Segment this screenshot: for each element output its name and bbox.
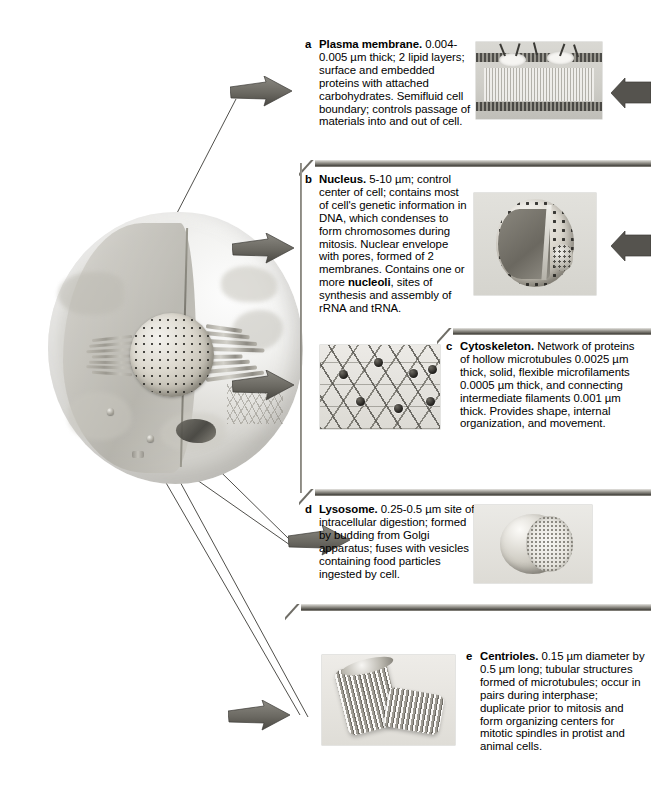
arrow-to-panel-b: [232, 233, 294, 267]
cytoplasm-blob: [58, 272, 124, 316]
plasma-membrane-illustration: [476, 42, 602, 119]
panel-term-a: Plasma membrane.: [319, 38, 422, 50]
panel-term-c: Cytoskeleton.: [460, 340, 534, 352]
panel-term-b: Nucleus.: [319, 173, 366, 185]
panel-separator-c-d: [299, 489, 651, 496]
arrow-to-panel-c: [232, 370, 294, 404]
panel-separator-d-e: [285, 604, 651, 611]
panel-desc-a: 0.004-0.005 µm thick; 2 lipid layers; su…: [319, 38, 470, 127]
panel-term-e: Centrioles.: [480, 650, 538, 662]
nucleus-organelle: [130, 313, 214, 397]
panel-lysosome: d Lysosome. 0.25-0.5 µm site of intracel…: [305, 503, 475, 583]
panel-emphasis-b: nucleoli: [348, 276, 391, 288]
arrow-to-panel-a: [230, 76, 292, 110]
panel-left-edge-b: [300, 163, 302, 493]
panel-letter-d: d: [305, 503, 312, 516]
panel-separator-b-c: [437, 328, 651, 335]
leader-centriole-2: [166, 456, 308, 717]
leader-centriole-1: [150, 455, 300, 715]
panel-nucleus: b Nucleus. 5-10 µm; control center of ce…: [305, 173, 475, 323]
centriole-organelle: [132, 451, 144, 458]
panel-letter-e: e: [466, 650, 472, 663]
lysosome-illustration: [474, 505, 592, 583]
centrioles-illustration: [322, 655, 455, 745]
panel-desc-b: 5-10 µm; control center of cell; contain…: [319, 173, 466, 288]
panel-centrioles: e Centrioles. 0.15 µm diameter by 0.5 µm…: [466, 650, 646, 790]
panel-letter-c: c: [446, 340, 452, 353]
panel-letter-b: b: [305, 173, 312, 186]
panel-separator-a-b: [299, 160, 651, 167]
figure-page: a Plasma membrane. 0.004-0.005 µm thick;…: [0, 0, 651, 805]
arrow-into-panel-b: [611, 231, 651, 261]
arrow-to-panel-e: [228, 700, 290, 734]
panel-plasma-membrane: a Plasma membrane. 0.004-0.005 µm thick;…: [305, 38, 475, 148]
nucleus-illustration: [474, 193, 596, 295]
panel-desc-c: Network of proteins of hollow microtubul…: [460, 340, 634, 429]
arrow-into-panel-a: [611, 78, 651, 108]
panel-cytoskeleton: c Cytoskeleton. Network of proteins of h…: [446, 340, 646, 468]
cytoplasm-blob: [221, 266, 277, 301]
panel-term-d: Lysosome.: [319, 503, 378, 515]
panel-desc-e: 0.15 µm diameter by 0.5 µm long; tubular…: [480, 650, 645, 752]
panel-letter-a: a: [305, 38, 311, 51]
lysosome-organelle: [107, 408, 114, 415]
cytoskeleton-illustration: [320, 345, 440, 429]
